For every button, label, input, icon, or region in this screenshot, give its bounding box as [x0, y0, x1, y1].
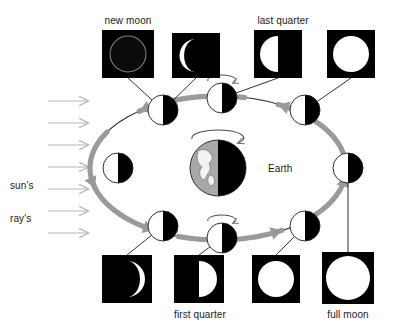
label-suns-rays-line2: ray's	[10, 213, 34, 224]
moon-top-center-dark-half	[222, 83, 237, 113]
photo-waning-gibbous-top	[327, 30, 375, 78]
label-suns-rays-line1: sun's	[10, 180, 34, 191]
photo-waxing-gibbous-bottom	[252, 255, 300, 303]
label-full-moon: full moon	[327, 309, 368, 320]
moon-top-right	[290, 95, 320, 125]
moon-bottom-left	[148, 211, 178, 241]
moon-top-left	[148, 95, 178, 125]
label-suns-rays: sun's ray's	[10, 158, 34, 246]
moon-bottom-center	[207, 215, 237, 253]
moon-left-dark-half	[118, 153, 133, 183]
diagram-canvas	[0, 0, 393, 328]
photo-waning-gibbous-top-disc	[333, 36, 369, 72]
moon-top-center	[207, 75, 237, 113]
label-last-quarter: last quarter	[257, 15, 308, 26]
photo-full-moon-disc	[326, 256, 370, 300]
suns-rays-group	[48, 101, 88, 233]
label-earth: Earth	[268, 163, 292, 174]
leader-line-photo-waxing-gibbous-bottom	[276, 237, 294, 255]
photo-last-quarter	[254, 30, 302, 78]
photo-waxing-crescent-bottom	[102, 255, 152, 303]
photo-first-quarter	[174, 255, 224, 303]
leader-line-photo-last-quarter	[236, 78, 278, 93]
label-new-moon: new moon	[105, 15, 152, 26]
leader-line-photo-waning-gibbous-top	[317, 78, 351, 101]
photo-waxing-crescent-top-frame	[172, 33, 220, 78]
earth-body	[190, 130, 246, 196]
photo-full-moon	[322, 252, 374, 304]
label-first-quarter: first quarter	[174, 309, 226, 320]
leader-line-photo-waxing-crescent-bottom	[127, 235, 151, 255]
moon-bottom-center-rotation-arrow	[208, 215, 236, 223]
moon-left	[103, 153, 133, 183]
moon-phase-diagram: new moon last quarter first quarter full…	[0, 0, 393, 328]
moon-right	[333, 153, 363, 183]
photo-waxing-crescent-top	[172, 33, 220, 78]
photo-new-moon-disc	[110, 36, 146, 72]
photo-waxing-gibbous-bottom-disc	[258, 261, 294, 297]
moon-bottom-center-dark-half	[222, 223, 237, 253]
earth-dark-hemisphere	[218, 140, 246, 196]
leader-line-photo-new-moon	[128, 78, 152, 100]
photo-new-moon	[102, 30, 154, 78]
leader-line-photo-first-quarter	[199, 247, 210, 255]
moon-right-dark-half	[348, 153, 363, 183]
moon-bottom-right	[290, 211, 320, 241]
